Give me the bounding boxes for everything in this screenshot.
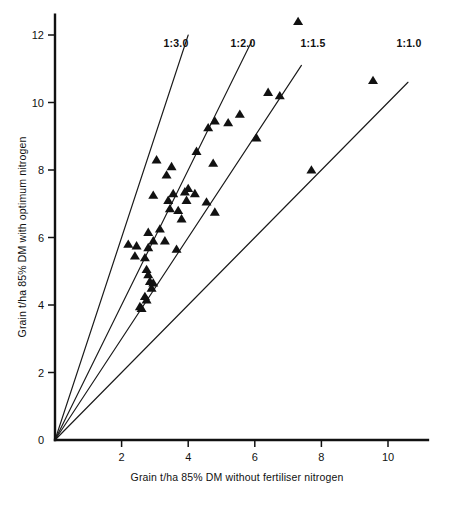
data-point-marker [177,214,187,222]
x-tick-label: 10 [382,451,394,463]
data-point-marker [210,116,220,124]
data-point-marker [173,206,183,214]
y-tick-label: 2 [38,367,44,379]
x-axis-title: Grain t/ha 85% DM without fertiliser nit… [131,471,344,483]
data-point-marker [160,236,170,244]
data-point-marker [251,133,261,141]
reference-line-label: 1:1.5 [301,37,326,49]
data-points-group [123,17,378,312]
y-tick-label: 12 [32,29,44,41]
data-point-marker [162,170,172,178]
data-point-marker [368,76,378,84]
y-tick-label: 10 [32,97,44,109]
data-point-marker [172,244,182,252]
reference-line-label: 1:2.0 [231,37,256,49]
data-point-marker [182,196,192,204]
data-point-marker [152,155,162,163]
data-point-marker [148,190,158,198]
reference-line-label: 1:1.0 [397,37,422,49]
data-point-marker [223,118,233,126]
data-point-marker [143,228,153,236]
data-point-marker [263,88,273,96]
data-point-marker [167,162,177,170]
data-point-marker [202,197,212,205]
reference-line-label: 1:3.0 [164,37,189,49]
x-tick-label: 0 [38,434,44,446]
data-point-marker [235,109,245,117]
data-point-marker [123,239,133,247]
data-point-marker [208,158,218,166]
reference-lines-group [55,35,408,440]
data-point-marker [148,236,158,244]
data-point-marker [165,204,175,212]
reference-line-labels-group: 1:3.01:2.01:1.51:1.0 [164,37,422,49]
scatter-plot-figure: 0246810 24681012 1:3.01:2.01:1.51:1.0 Gr… [0,0,450,507]
x-axis-ticks-group: 0246810 [38,434,394,463]
y-axis-ticks-group: 24681012 [32,29,55,379]
data-point-marker [293,17,303,25]
data-point-marker [306,165,316,173]
data-point-marker [130,251,140,259]
data-point-marker [140,253,150,261]
data-point-marker [155,224,165,232]
y-tick-label: 4 [38,299,44,311]
y-tick-label: 8 [38,164,44,176]
reference-line [55,82,408,440]
x-tick-label: 2 [119,451,125,463]
y-tick-label: 6 [38,232,44,244]
reference-line [55,35,188,440]
x-tick-label: 4 [185,451,191,463]
x-tick-label: 6 [252,451,258,463]
data-point-marker [132,241,142,249]
data-point-marker [142,265,152,273]
y-axis-title: Grain t/ha 85% DM with optimum nitrogen [16,137,28,338]
data-point-marker [192,147,202,155]
chart-canvas: 0246810 24681012 1:3.01:2.01:1.51:1.0 Gr… [0,0,450,507]
x-tick-label: 8 [318,451,324,463]
data-point-marker [210,207,220,215]
